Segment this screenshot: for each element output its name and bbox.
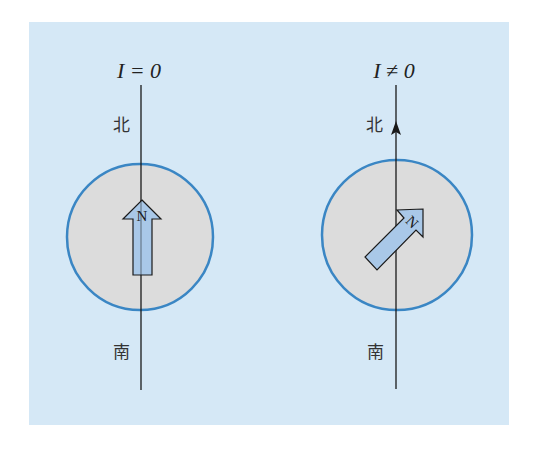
- north-label: 北: [366, 115, 383, 135]
- south-label: 南: [113, 342, 130, 362]
- needle-north-label: N: [137, 208, 148, 224]
- south-label: 南: [367, 342, 384, 362]
- oersted-experiment-diagram: I = 0 北 南 N I ≠ 0 北 南 N: [0, 0, 538, 454]
- current-label: I ≠ 0: [372, 58, 414, 83]
- current-label: I = 0: [116, 58, 161, 83]
- north-label: 北: [113, 115, 130, 135]
